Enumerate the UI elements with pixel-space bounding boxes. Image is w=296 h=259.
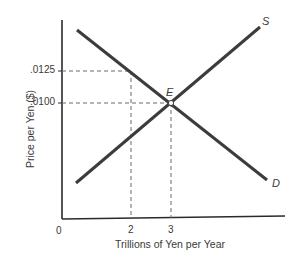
y-axis-title: Price per Yen ($) [24, 69, 36, 189]
origin-label: 0 [56, 225, 62, 236]
x-tick-label-2: 2 [128, 224, 134, 235]
supply-demand-chart: .0125 .0100 0 2 3 Trillions of Yen per Y… [0, 0, 296, 259]
demand-label: D [272, 177, 280, 189]
equilibrium-label: E [166, 86, 173, 98]
supply-label: S [262, 15, 269, 27]
x-axis [62, 216, 285, 219]
equilibrium-point [168, 100, 173, 105]
chart-canvas [0, 0, 296, 259]
x-tick-label-3: 3 [168, 224, 174, 235]
x-axis-title: Trillions of Yen per Year [90, 238, 250, 250]
